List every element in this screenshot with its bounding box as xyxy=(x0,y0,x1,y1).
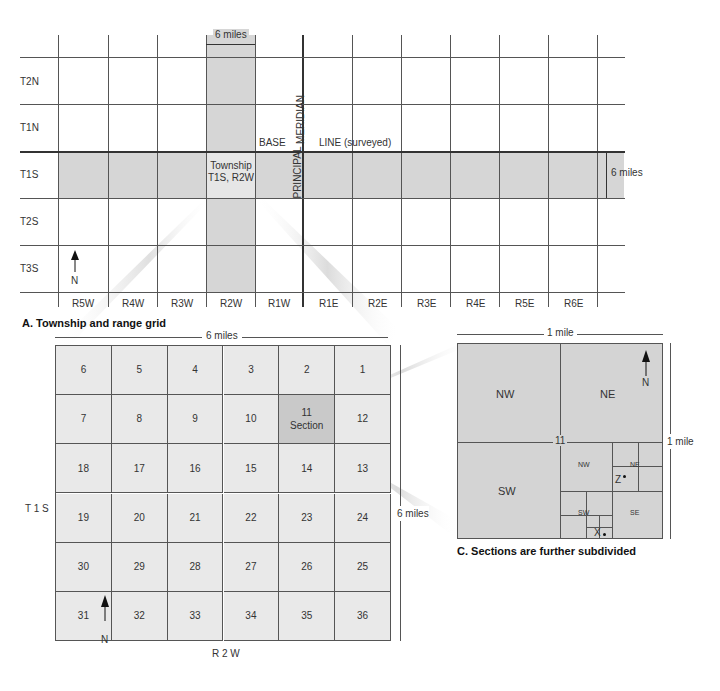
grid-line xyxy=(20,57,625,58)
section-23: 23 xyxy=(279,494,335,543)
section-number: 7 xyxy=(81,412,87,426)
section-28: 28 xyxy=(168,543,224,592)
sub-line xyxy=(560,491,663,492)
point-x-label: X xyxy=(594,527,601,538)
range-label: R1E xyxy=(319,298,338,309)
section-number: 25 xyxy=(357,560,368,574)
range-label: R3W xyxy=(171,298,193,309)
section-26: 26 xyxy=(279,543,335,592)
grid-line xyxy=(352,35,353,307)
section-number: 23 xyxy=(301,511,312,525)
section-number: 31 xyxy=(78,609,89,623)
section-number: 17 xyxy=(134,462,145,476)
section-number: 22 xyxy=(245,511,256,525)
section-number: 29 xyxy=(134,560,145,574)
section-10: 10 xyxy=(224,395,280,444)
section-1: 1 xyxy=(335,346,391,395)
section-number: 21 xyxy=(190,511,201,525)
grid-line xyxy=(450,35,451,307)
section-9: 9 xyxy=(168,395,224,444)
section-22: 22 xyxy=(224,494,280,543)
north-arrow-icon xyxy=(100,595,110,623)
section-number: 1 xyxy=(360,363,366,377)
section-number: 11 xyxy=(302,406,312,420)
dimension-line xyxy=(400,345,401,641)
point-x-marker xyxy=(603,533,606,536)
top-dimension-label: 1 mile xyxy=(544,327,577,338)
township-name-line1: Township xyxy=(206,160,256,171)
section-number: 36 xyxy=(357,609,368,623)
range-label: R6E xyxy=(564,298,583,309)
right-dimension-label: 6 miles xyxy=(611,167,643,178)
range-label: R4E xyxy=(466,298,485,309)
range-label: R 2 W xyxy=(212,648,240,659)
panel-c-caption: C. Sections are further subdivided xyxy=(457,545,636,557)
section-30: 30 xyxy=(56,543,112,592)
grid-line xyxy=(401,35,402,307)
township-label: T2S xyxy=(20,216,38,227)
township-name-line2: T1S, R2W xyxy=(206,172,256,183)
base-label: BASE xyxy=(259,137,286,148)
section-36: 36 xyxy=(335,592,391,641)
section-number: 13 xyxy=(357,462,368,476)
quarter-sw-label: SW xyxy=(498,485,516,497)
grid-line xyxy=(157,35,158,307)
section-21: 21 xyxy=(168,494,224,543)
township-label: T1S xyxy=(20,169,38,180)
section-number: 20 xyxy=(134,511,145,525)
section-3: 3 xyxy=(224,346,280,395)
section-number: 26 xyxy=(301,560,312,574)
section-number: 15 xyxy=(245,462,256,476)
section-number: 3 xyxy=(248,363,254,377)
section-number: 28 xyxy=(190,560,201,574)
section-11-detail: NW NE SW 11 NW NE SW SE Z X N xyxy=(457,343,663,539)
se-se-label: SE xyxy=(630,509,639,516)
grid-line xyxy=(20,292,625,293)
grid-line xyxy=(499,35,500,307)
range-label: R2E xyxy=(368,298,387,309)
section-number: 12 xyxy=(357,412,368,426)
section-17: 17 xyxy=(112,444,168,493)
section-5: 5 xyxy=(112,346,168,395)
section-15: 15 xyxy=(224,444,280,493)
township-label: T2N xyxy=(20,76,39,87)
quarter-nw-label: NW xyxy=(496,388,514,400)
section-number-label: 11 xyxy=(553,435,567,446)
section-11: 11Section xyxy=(279,395,335,444)
base-line xyxy=(20,151,625,153)
north-arrow-icon xyxy=(70,250,80,276)
section-18: 18 xyxy=(56,444,112,493)
section-number: 14 xyxy=(301,462,312,476)
range-label: R1W xyxy=(268,298,290,309)
section-number: 34 xyxy=(245,609,256,623)
section-number: 33 xyxy=(190,609,201,623)
right-dimension-label: 6 miles xyxy=(397,506,429,521)
section-number: 5 xyxy=(136,363,142,377)
grid-line xyxy=(597,35,598,307)
section-number: 6 xyxy=(81,363,87,377)
se-sw-label: SW xyxy=(578,509,589,516)
township-label: T3S xyxy=(20,263,38,274)
section-number: 19 xyxy=(78,511,89,525)
section-6: 6 xyxy=(56,346,112,395)
north-arrow-icon xyxy=(641,350,651,376)
quarter-ne-label: NE xyxy=(600,388,615,400)
principal-label: PRINCIPAL xyxy=(292,138,303,208)
range-label: R3E xyxy=(417,298,436,309)
grid-line xyxy=(255,35,256,307)
section-27: 27 xyxy=(224,543,280,592)
section-number: 24 xyxy=(357,511,368,525)
section-word: Section xyxy=(290,419,323,433)
township-label: T1N xyxy=(20,122,39,133)
section-33: 33 xyxy=(168,592,224,641)
panel-a-caption: A. Township and range grid xyxy=(22,317,166,329)
section-34: 34 xyxy=(224,592,280,641)
grid-line xyxy=(108,35,109,307)
section-number: 30 xyxy=(78,560,89,574)
line-surveyed-label: LINE (surveyed) xyxy=(319,137,391,148)
grid-line xyxy=(58,35,59,307)
section-number: 2 xyxy=(304,363,310,377)
grid-line xyxy=(20,104,625,105)
section-29: 29 xyxy=(112,543,168,592)
t1s-row-shade xyxy=(58,151,624,198)
